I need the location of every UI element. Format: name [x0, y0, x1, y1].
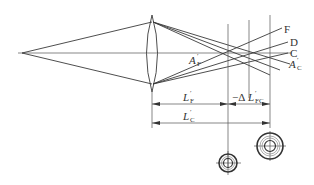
svg-text:FC: FC — [255, 97, 264, 105]
svg-text:F: F — [197, 60, 201, 68]
svg-text:′: ′ — [297, 56, 299, 64]
svg-text:A: A — [188, 54, 196, 66]
blur-spot-small — [216, 151, 241, 175]
ray-bottom-D — [153, 42, 288, 84]
rays-from-top — [153, 22, 290, 75]
object-ray-top — [22, 22, 152, 53]
arrow-left-icon — [152, 121, 160, 125]
label-LC: L ′ C — [182, 108, 195, 124]
label-LF: L ′ F — [182, 89, 194, 105]
label-AF-prime: A ′ F — [188, 52, 201, 68]
convex-lens — [147, 15, 158, 92]
chromatic-aberration-diagram: F D C A ′ C A ′ F L ′ F −Δ L ′ FC L ′ C — [0, 0, 314, 185]
svg-text:A: A — [288, 58, 296, 70]
svg-text:−Δ: −Δ — [232, 91, 245, 103]
rays-from-bottom — [153, 28, 288, 84]
ray-top-D — [153, 22, 280, 70]
ray-top-F — [153, 22, 270, 75]
object-ray-bottom — [22, 53, 152, 84]
svg-text:L: L — [182, 91, 189, 103]
arrow-right-icon — [262, 121, 270, 125]
svg-text:′: ′ — [190, 108, 192, 116]
svg-text:′: ′ — [190, 89, 192, 97]
label-dLFC: −Δ L ′ FC — [232, 89, 264, 105]
svg-text:L: L — [182, 110, 189, 122]
arrow-right-icon — [220, 102, 228, 106]
svg-text:C: C — [297, 64, 302, 72]
svg-text:C: C — [190, 116, 195, 124]
svg-text:′: ′ — [255, 89, 257, 97]
label-AC-prime: A ′ C — [288, 56, 302, 72]
blur-spot-large — [254, 131, 286, 161]
arrow-left-icon — [152, 102, 160, 106]
svg-text:F: F — [190, 97, 194, 105]
label-F: F — [284, 23, 290, 35]
svg-text:L: L — [247, 91, 254, 103]
ray-bottom-C — [153, 53, 288, 84]
